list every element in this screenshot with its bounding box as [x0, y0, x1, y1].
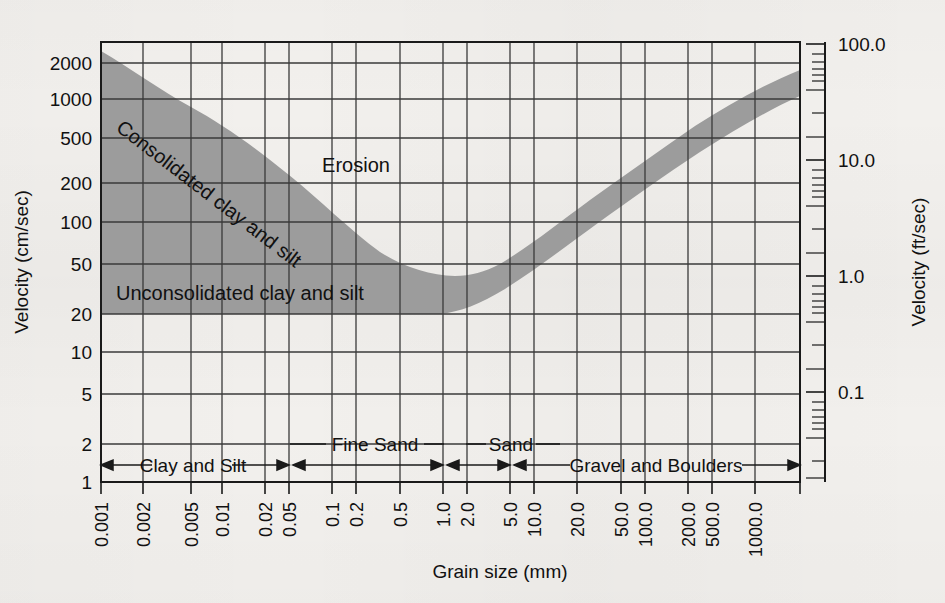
bottom-axis-title: Grain size (mm): [432, 561, 567, 582]
grain-class-bracket-fine-sand: [293, 460, 443, 470]
bottom-tick-label: 0.005: [182, 502, 202, 547]
bottom-tick-label: 1.0: [434, 502, 454, 527]
bottom-tick-label: 2.0: [458, 502, 478, 527]
bottom-tick-label: 0.1: [323, 502, 343, 527]
grain-class-label-gravel-and-boulders: Gravel and Boulders: [569, 455, 742, 476]
grain-class-label-fine-sand: Fine Sand: [332, 434, 419, 455]
bottom-tick-label: 0.2: [347, 502, 367, 527]
left-tick-label: 50: [71, 254, 92, 275]
bottom-tick-label: 0.01: [213, 502, 233, 537]
left-tick-label: 1: [81, 472, 92, 493]
grain-class-label-clay-and-silt: Clay and Silt: [140, 455, 247, 476]
bottom-tick-label: 5.0: [501, 502, 521, 527]
left-tick-label: 2000: [50, 53, 92, 74]
left-axis-tick-labels: 2000 1000 500 200 100 50 20 10 5 2 1: [50, 53, 92, 493]
right-axis: 100.0 10.0 1.0 0.1: [806, 34, 886, 482]
grain-class-label-sand: Sand: [489, 434, 533, 455]
right-tick-label: 10.0: [838, 150, 875, 171]
bottom-tick-label: 0.5: [391, 502, 411, 527]
right-axis-tick-labels: 100.0 10.0 1.0 0.1: [838, 34, 886, 403]
right-tick-label: 1.0: [838, 266, 864, 287]
hjulstrom-diagram-figure: 2000 1000 500 200 100 50 20 10 5 2 1 Vel…: [0, 0, 945, 603]
left-tick-label: 2: [81, 434, 92, 455]
left-tick-label: 200: [60, 173, 92, 194]
left-tick-label: 20: [71, 304, 92, 325]
bottom-tick-label: 0.001: [92, 502, 112, 547]
bottom-tick-label: 0.002: [134, 502, 154, 547]
chart-svg: 2000 1000 500 200 100 50 20 10 5 2 1 Vel…: [0, 0, 945, 603]
left-tick-label: 100: [60, 212, 92, 233]
right-axis-title: Velocity (ft/sec): [908, 198, 929, 327]
grain-class-bracket-sand: [447, 460, 510, 470]
bottom-tick-label: 0.02: [256, 502, 276, 537]
bottom-tick-label: 100.0: [636, 502, 656, 547]
left-tick-label: 5: [81, 384, 92, 405]
bottom-axis-ticks: [101, 482, 800, 494]
right-axis-major-ticks: [806, 44, 825, 392]
bottom-axis-tick-labels: 0.001 0.002 0.005 0.01 0.02 0.05 0.1 0.2…: [92, 502, 766, 557]
bottom-tick-label: 50.0: [612, 502, 632, 537]
bottom-tick-label: 500.0: [703, 502, 723, 547]
erosion-region-label: Erosion: [322, 154, 390, 176]
left-axis-title: Velocity (cm/sec): [11, 190, 32, 334]
unconsolidated-region-label: Unconsolidated clay and silt: [116, 282, 364, 304]
bottom-tick-label: 0.05: [280, 502, 300, 537]
bottom-tick-label: 20.0: [568, 502, 588, 537]
right-tick-label: 100.0: [838, 34, 886, 55]
right-tick-label: 0.1: [838, 382, 864, 403]
bottom-tick-label: 1000.0: [746, 502, 766, 557]
bottom-tick-label: 200.0: [679, 502, 699, 547]
right-axis-minor-ticks: [806, 54, 825, 478]
left-tick-label: 10: [71, 342, 92, 363]
left-tick-label: 500: [60, 128, 92, 149]
bottom-tick-label: 10.0: [525, 502, 545, 537]
left-tick-label: 1000: [50, 89, 92, 110]
